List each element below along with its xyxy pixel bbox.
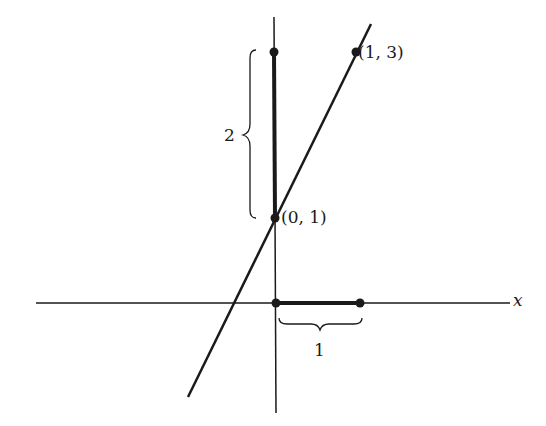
rise-brace [243, 50, 256, 218]
slope-line [188, 24, 371, 397]
point-top-of-rise [270, 48, 279, 57]
point-label-1-3: (1, 3) [358, 44, 404, 61]
x-axis-label: x [513, 292, 523, 309]
rise-label: 2 [224, 127, 235, 144]
run-label: 1 [314, 342, 325, 359]
point-0-1 [271, 214, 280, 223]
slope-diagram: (1, 3) (0, 1) 2 1 x [0, 0, 546, 426]
point-1-0 [356, 299, 365, 308]
diagram-graphics [0, 0, 546, 426]
run-brace [279, 318, 362, 330]
rise-segment [274, 52, 275, 218]
point-label-0-1: (0, 1) [281, 209, 327, 226]
point-origin [272, 299, 281, 308]
